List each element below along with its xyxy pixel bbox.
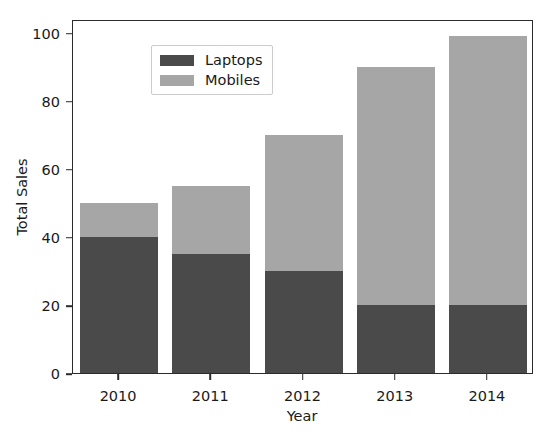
- x-tick-mark-2014: [486, 374, 488, 380]
- bar-segment-laptops-2010[interactable]: [80, 237, 158, 373]
- y-tick-label-60: 60: [42, 162, 60, 178]
- x-tick-label-2011: 2011: [192, 388, 229, 404]
- legend-swatch-mobiles: [160, 75, 194, 86]
- y-tick-label-0: 0: [51, 366, 60, 382]
- bar-segment-mobiles-2012[interactable]: [265, 135, 343, 271]
- x-tick-label-2010: 2010: [100, 388, 137, 404]
- bar-segment-laptops-2011[interactable]: [172, 254, 250, 373]
- y-tick-label-80: 80: [42, 94, 60, 110]
- x-tick-label-2014: 2014: [468, 388, 505, 404]
- legend-item-laptops[interactable]: Laptops: [160, 52, 262, 68]
- chart-title-ghost: [0, 0, 553, 14]
- y-tick-label-100: 100: [32, 26, 60, 42]
- legend-label-mobiles: Mobiles: [205, 72, 260, 88]
- chart-figure: Total Sales 020406080100 LaptopsMobiles …: [0, 0, 553, 432]
- bar-segment-mobiles-2013[interactable]: [357, 67, 435, 305]
- legend-item-mobiles[interactable]: Mobiles: [160, 72, 262, 88]
- plot-area: [73, 21, 532, 373]
- x-tick-mark-2013: [394, 374, 396, 380]
- x-tick-label-2013: 2013: [376, 388, 413, 404]
- y-tick-label-40: 40: [42, 230, 60, 246]
- bar-segment-mobiles-2014[interactable]: [449, 36, 527, 305]
- bar-segment-laptops-2013[interactable]: [357, 305, 435, 373]
- bar-segment-mobiles-2010[interactable]: [80, 203, 158, 237]
- x-tick-mark-2011: [210, 374, 212, 380]
- bar-segment-mobiles-2011[interactable]: [172, 186, 250, 254]
- legend-label-laptops: Laptops: [205, 52, 262, 68]
- x-tick-mark-2012: [302, 374, 304, 380]
- x-tick-mark-2010: [117, 374, 119, 380]
- y-tick-label-20: 20: [42, 298, 60, 314]
- chart-legend: LaptopsMobiles: [151, 45, 273, 95]
- bar-segment-laptops-2012[interactable]: [265, 271, 343, 373]
- legend-swatch-laptops: [160, 55, 194, 66]
- x-axis-title: Year: [287, 408, 318, 424]
- x-tick-label-2012: 2012: [284, 388, 321, 404]
- plot-frame: LaptopsMobiles: [72, 20, 533, 374]
- bar-segment-laptops-2014[interactable]: [449, 305, 527, 373]
- y-axis-ticks: 020406080100: [0, 0, 72, 432]
